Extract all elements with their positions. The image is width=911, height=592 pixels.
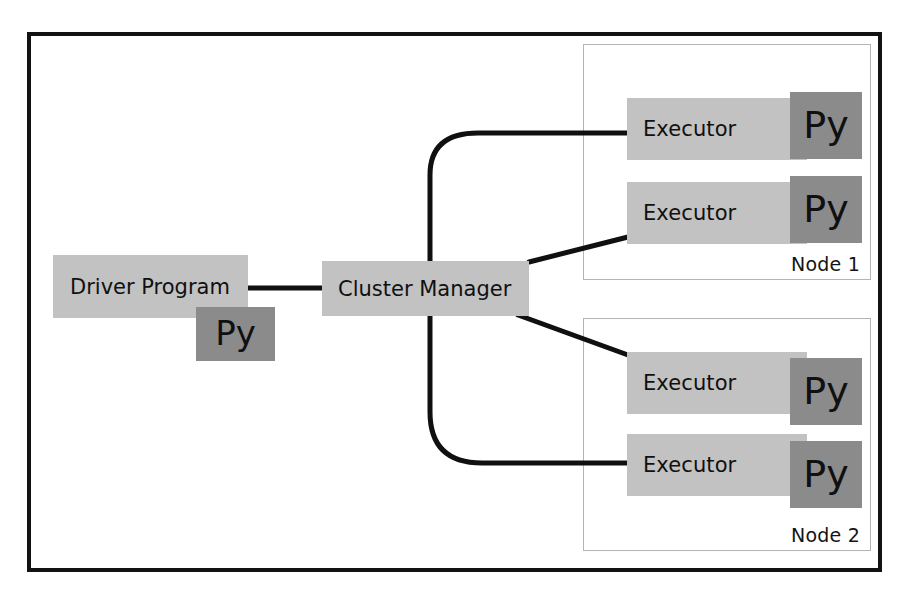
executor-box-node2-1: Executor bbox=[627, 352, 807, 414]
driver-py-box: Py bbox=[196, 307, 275, 361]
cluster-manager-box: Cluster Manager bbox=[322, 261, 529, 316]
executor-box-node2-2: Executor bbox=[627, 434, 807, 496]
executor-py-box-node2-1: Py bbox=[790, 358, 862, 425]
executor-py-label-node1-1: Py bbox=[803, 106, 848, 144]
executor-box-node1-2: Executor bbox=[627, 182, 807, 244]
executor-py-box-node2-2: Py bbox=[790, 441, 862, 508]
executor-py-label-node1-2: Py bbox=[803, 190, 848, 228]
node-label-2: Node 2 bbox=[791, 524, 860, 546]
executor-py-label-node2-1: Py bbox=[803, 372, 848, 410]
executor-label-node1-2: Executor bbox=[627, 201, 736, 225]
executor-py-box-node1-2: Py bbox=[790, 176, 862, 243]
executor-py-box-node1-1: Py bbox=[790, 92, 862, 159]
executor-label-node2-2: Executor bbox=[627, 453, 736, 477]
diagram-canvas: Node 1 Node 2 Driver Program Py Cluster … bbox=[0, 0, 911, 592]
driver-program-label: Driver Program bbox=[53, 275, 230, 299]
executor-box-node1-1: Executor bbox=[627, 98, 807, 160]
executor-label-node2-1: Executor bbox=[627, 371, 736, 395]
node-label-1: Node 1 bbox=[791, 253, 860, 275]
node-container-1: Node 1 bbox=[583, 44, 871, 280]
executor-label-node1-1: Executor bbox=[627, 117, 736, 141]
executor-py-label-node2-2: Py bbox=[803, 455, 848, 493]
driver-py-label: Py bbox=[215, 316, 256, 350]
cluster-manager-label: Cluster Manager bbox=[322, 277, 511, 301]
